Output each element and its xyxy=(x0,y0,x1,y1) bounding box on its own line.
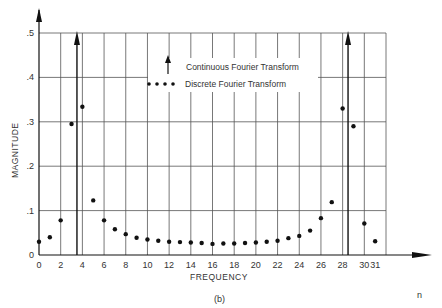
data-point xyxy=(232,241,236,245)
x-tick-label: 14 xyxy=(186,260,196,270)
data-point xyxy=(275,239,279,243)
chart: 02468101214161820222426283031 0.1.2.3.4.… xyxy=(0,0,442,308)
y-tick-labels: 0.1.2.3.4.5 xyxy=(26,28,34,260)
data-point xyxy=(221,241,225,245)
data-point xyxy=(178,240,182,244)
data-point xyxy=(340,106,344,110)
data-point xyxy=(265,239,269,243)
data-point xyxy=(145,237,149,241)
data-point xyxy=(156,239,160,243)
x-axis-arrow-icon xyxy=(412,252,432,258)
data-point xyxy=(297,234,301,238)
x-tick-label: 2 xyxy=(58,260,63,270)
legend-label-continuous: Continuous Fourier Transform xyxy=(186,62,299,72)
x-tick-label: 20 xyxy=(251,260,261,270)
data-point xyxy=(91,198,95,202)
data-point xyxy=(286,236,290,240)
y-tick-label: .3 xyxy=(26,117,34,127)
data-point xyxy=(330,200,334,204)
x-tick-label: 22 xyxy=(273,260,283,270)
x-tick-label: 31 xyxy=(370,260,380,270)
data-point xyxy=(210,242,214,246)
x-tick-label: 6 xyxy=(102,260,107,270)
x-tick-label: 18 xyxy=(229,260,239,270)
x-tick-labels: 02468101214161820222426283031 xyxy=(36,260,380,270)
x-tick-label: 16 xyxy=(207,260,217,270)
data-point xyxy=(254,240,258,244)
data-point xyxy=(308,228,312,232)
data-point xyxy=(58,218,62,222)
data-point xyxy=(351,124,355,128)
x-tick-label: 24 xyxy=(294,260,304,270)
x-axis-end-label: n xyxy=(417,290,422,300)
x-tick-label: 0 xyxy=(36,260,41,270)
data-point xyxy=(48,235,52,239)
y-tick-label: .5 xyxy=(26,28,34,38)
data-point xyxy=(362,221,366,225)
data-point xyxy=(80,105,84,109)
legend-label-discrete: Discrete Fourier Transform xyxy=(185,79,286,89)
data-point xyxy=(102,218,106,222)
x-tick-label: 10 xyxy=(142,260,152,270)
x-tick-label: 28 xyxy=(338,260,348,270)
data-point xyxy=(319,216,323,220)
data-point xyxy=(124,232,128,236)
x-tick-label: 4 xyxy=(80,260,85,270)
y-tick-label: .1 xyxy=(26,206,34,216)
y-tick-label: 0 xyxy=(29,250,34,260)
x-tick-label: 12 xyxy=(164,260,174,270)
data-point xyxy=(189,240,193,244)
figure-caption: (b) xyxy=(214,294,225,304)
data-point xyxy=(243,241,247,245)
data-point xyxy=(134,235,138,239)
y-tick-label: .2 xyxy=(26,161,34,171)
data-point xyxy=(199,241,203,245)
y-axis-label: MAGNITUDE xyxy=(10,123,20,179)
x-tick-label: 30 xyxy=(359,260,369,270)
x-tick-label: 26 xyxy=(316,260,326,270)
data-point xyxy=(37,239,41,243)
legend: Continuous Fourier Transform Discrete Fo… xyxy=(147,55,318,92)
data-point xyxy=(167,239,171,243)
data-point xyxy=(373,239,377,243)
data-point xyxy=(69,122,73,126)
discrete-transform-points xyxy=(37,105,378,247)
y-tick-label: .4 xyxy=(26,72,34,82)
data-point xyxy=(113,227,117,231)
x-tick-label: 8 xyxy=(123,260,128,270)
x-axis-label: FREQUENCY xyxy=(190,272,248,282)
y-axis-arrow-icon xyxy=(36,8,42,22)
